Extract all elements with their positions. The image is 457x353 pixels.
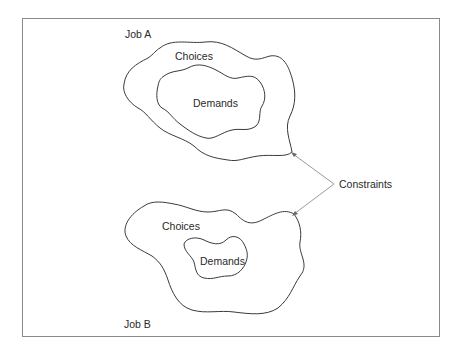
arrow-to-job-a [293,154,334,184]
constraints-label: Constraints [339,179,392,190]
arrow-to-job-b [294,184,334,214]
diagram-canvas [0,0,457,353]
job-a-label: Job A [125,29,151,40]
job-a-choices-label: Choices [175,51,213,62]
job-b-label: Job B [124,319,151,330]
job-b-choices-label: Choices [162,221,200,232]
constraints-arrows [291,152,334,216]
job-a-demands-label: Demands [193,98,238,109]
job-b-demands-label: Demands [200,256,245,267]
